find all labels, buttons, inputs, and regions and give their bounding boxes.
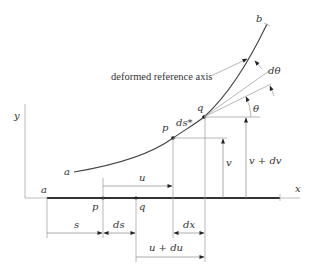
- deformed-reference-axis-curve: [74, 24, 267, 172]
- deformed-label-p: p: [162, 122, 169, 133]
- v-plus-dv-label: v + dv: [249, 155, 282, 166]
- theta-arc: [246, 97, 251, 117]
- ds-label: ds: [113, 219, 125, 230]
- y-axis-label: y: [13, 110, 20, 121]
- undeformed-label-p: p: [92, 201, 99, 212]
- deformed-beam-diagram: y x a p q a b p ds* q deformed reference…: [0, 0, 311, 272]
- dtheta-arrow-upper: [255, 61, 262, 69]
- s-label: s: [74, 219, 79, 230]
- deformed-reference-axis-label: deformed reference axis: [111, 71, 212, 82]
- theta-label: θ: [253, 103, 259, 114]
- dtheta-label: dθ: [268, 65, 280, 76]
- v-label: v: [226, 157, 232, 168]
- arc-length-label: ds*: [176, 117, 193, 128]
- tangent-at-p-shifted: [204, 84, 271, 117]
- caption-leader: [211, 59, 247, 76]
- curve-label-b: b: [256, 13, 262, 24]
- curve-end-tick: [264, 23, 270, 26]
- curve-label-a: a: [64, 166, 70, 177]
- undeformed-label-q: q: [139, 201, 145, 212]
- undeformed-label-a: a: [41, 184, 47, 195]
- u-plus-du-label: u + du: [149, 242, 183, 253]
- deformed-label-q: q: [197, 102, 203, 113]
- u-label: u: [139, 172, 145, 183]
- dtheta-arrow-lower: [270, 86, 274, 96]
- x-axis-label: x: [295, 183, 301, 194]
- dx-label: dx: [183, 219, 195, 230]
